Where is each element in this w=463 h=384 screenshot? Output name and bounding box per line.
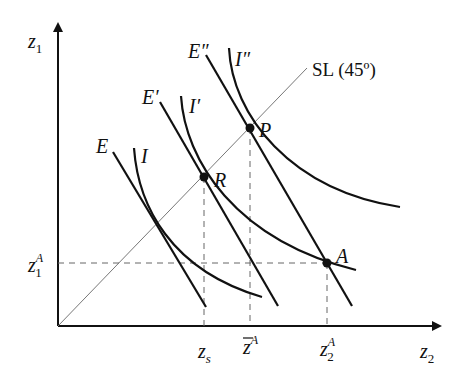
label-E: E xyxy=(95,135,108,157)
label-I-double-prime: I″ xyxy=(234,48,251,70)
points xyxy=(200,124,332,268)
point-A xyxy=(323,259,332,268)
x-axis-label: z2 xyxy=(419,340,434,366)
diagram-canvas: z1 z2 SL (45º) E E′ E″ I I′ I″ P R A zA1… xyxy=(0,0,463,384)
budget-line-E xyxy=(113,152,206,307)
label-E-double-prime: E″ xyxy=(187,40,209,62)
x-tick-z2A: zA2 xyxy=(319,335,336,364)
y-tick-z1A: zA1 xyxy=(27,251,44,280)
label-I-prime: I′ xyxy=(188,95,201,117)
x-tick-zbarA: zA xyxy=(242,333,259,358)
label-E-prime: E′ xyxy=(141,86,159,108)
label-P: P xyxy=(258,119,271,141)
point-R xyxy=(200,173,209,182)
point-P xyxy=(246,124,255,133)
label-I: I xyxy=(140,145,149,167)
indifference-curves xyxy=(134,48,400,297)
label-R: R xyxy=(213,169,226,191)
y-axis-label: z1 xyxy=(27,30,42,56)
svg-text:zA: zA xyxy=(242,333,259,358)
sl-ray-label: SL (45º) xyxy=(312,59,376,81)
x-tick-zs: zs xyxy=(197,340,211,366)
label-A: A xyxy=(334,245,349,267)
indifference-curve-I xyxy=(134,148,262,297)
budget-line-E-double-prime xyxy=(206,55,352,306)
